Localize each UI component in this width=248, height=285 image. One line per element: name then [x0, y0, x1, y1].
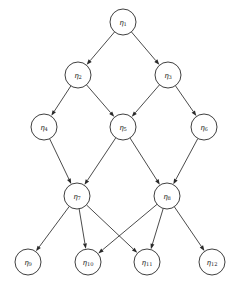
edge-line	[87, 138, 115, 181]
arrowhead-icon	[67, 178, 71, 184]
edge-n3-to-n6	[175, 86, 196, 116]
edge-line	[135, 85, 159, 113]
graph-node-n7[interactable]: η7	[64, 183, 90, 209]
arrowhead-icon	[155, 179, 160, 185]
graph-node-n4[interactable]: η4	[31, 114, 57, 140]
arrowhead-icon	[83, 243, 87, 249]
edge-n5-to-n8	[130, 138, 160, 185]
arrowhead-icon	[192, 110, 197, 116]
edge-line	[174, 207, 201, 247]
edge-n6-to-n8	[173, 138, 198, 184]
edge-n2-to-n4	[51, 86, 71, 116]
edges-layer	[36, 32, 204, 254]
graph-node-n5[interactable]: η5	[110, 114, 136, 140]
edge-n7-to-n9	[36, 206, 69, 251]
edge-n7-to-n10	[79, 209, 87, 249]
graph-node-n2[interactable]: η2	[65, 62, 91, 88]
dag-diagram: η1η2η3η4η5η6η7η8η9η10η11η12	[0, 0, 248, 285]
edge-n7-to-n11	[86, 205, 137, 253]
edge-line	[54, 86, 71, 111]
edge-n8-to-n11	[151, 208, 164, 249]
edge-line	[176, 138, 198, 179]
edge-line	[79, 209, 85, 244]
arrowhead-icon	[151, 243, 155, 249]
edge-line	[87, 85, 111, 113]
edge-n5-to-n7	[84, 138, 115, 185]
graph-node-n9[interactable]: η9	[15, 249, 41, 275]
edge-line	[39, 206, 69, 246]
edge-line	[175, 86, 193, 112]
graph-node-n3[interactable]: η3	[155, 62, 181, 88]
edge-line	[90, 32, 114, 61]
arrowhead-icon	[173, 178, 177, 184]
edge-line	[152, 208, 163, 244]
graph-node-n1[interactable]: η1	[110, 9, 136, 35]
edge-line	[50, 139, 69, 179]
graph-node-n11[interactable]: η11	[134, 249, 160, 275]
edge-n2-to-n5	[87, 85, 115, 117]
edge-n8-to-n12	[174, 207, 204, 251]
arrowhead-icon	[200, 245, 205, 251]
arrowhead-icon	[36, 246, 41, 252]
graph-node-n10[interactable]: η10	[75, 249, 101, 275]
edge-n1-to-n2	[87, 32, 115, 65]
edge-n4-to-n7	[50, 139, 72, 184]
edge-n3-to-n5	[132, 85, 160, 117]
edge-n8-to-n10	[98, 204, 157, 253]
graph-node-n12[interactable]: η12	[199, 249, 225, 275]
edge-line	[131, 32, 155, 61]
edge-line	[130, 138, 157, 180]
graph-node-n6[interactable]: η6	[191, 114, 217, 140]
arrowhead-icon	[51, 110, 56, 116]
edge-line	[86, 205, 133, 249]
arrowhead-icon	[84, 179, 89, 185]
edge-n1-to-n3	[131, 32, 159, 65]
graph-node-n8[interactable]: η8	[154, 183, 180, 209]
